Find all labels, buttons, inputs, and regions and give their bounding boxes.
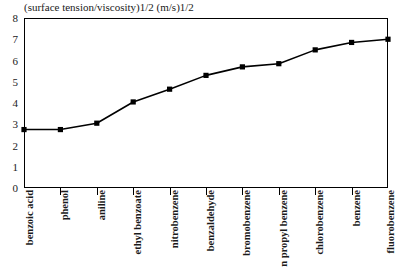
x-tick-label-text: chlorobenzene (315, 190, 326, 257)
y-tick-label: 2 (13, 140, 19, 151)
x-tick-label-text: ethyl benzoate (133, 190, 144, 256)
data-point-marker: n propyl benzene: 5.85 (276, 61, 281, 66)
data-series-layer: benzoic acid: 2.75phenol: 2.75aniline: 3… (24, 18, 388, 188)
y-tick-label: 6 (13, 55, 19, 66)
data-point-marker: chlorobenzene: 6.5 (313, 47, 318, 52)
data-point-marker: phenol: 2.75 (58, 127, 63, 132)
y-tick-label: 1 (13, 161, 19, 172)
x-tick-label-text: fluorobenzene (386, 190, 397, 255)
data-point-marker: benzoic acid: 2.75 (21, 127, 26, 132)
data-point-marker: benzaldehyde: 5.3 (203, 73, 208, 78)
x-tick-label-text: n propyl benzene (279, 190, 290, 269)
x-tick-label-text: bromobenzene (242, 190, 253, 258)
x-tick-label: benzoic acid (25, 190, 36, 247)
x-tick-label-text: benzoic acid (25, 190, 36, 247)
data-point-marker: benzene: 6.85 (349, 40, 354, 45)
x-tick-label: fluorobenzene (386, 190, 397, 255)
data-point-marker: bromobenzene: 5.7 (240, 64, 245, 69)
series-svg: benzoic acid: 2.75phenol: 2.75aniline: 3… (24, 18, 388, 188)
y-tick-label: 0 (13, 183, 19, 194)
x-tick-label-text: phenol (60, 190, 71, 222)
x-tick-label: bromobenzene (242, 190, 253, 258)
x-tick-label: nitrobenzene (170, 190, 181, 250)
y-tick-label: 8 (13, 13, 19, 24)
x-tick-label: chlorobenzene (315, 190, 326, 257)
y-tick-label: 7 (13, 34, 19, 45)
chart-title: (surface tension/viscosity)1/2 (m/s)1/2 (24, 1, 194, 14)
x-tick-label: aniline (97, 190, 108, 222)
data-point-marker: aniline: 3.05 (94, 121, 99, 126)
data-point-marker: fluorobenzene: 7 (385, 37, 390, 42)
y-tick-label: 3 (13, 119, 19, 130)
x-tick-label: benzene (352, 190, 363, 228)
x-tick-label-text: benzaldehyde (206, 190, 217, 253)
y-tick-label: 5 (13, 76, 19, 87)
chart-container: (surface tension/viscosity)1/2 (m/s)1/2 … (0, 0, 397, 273)
x-tick-label: benzaldehyde (206, 190, 217, 253)
x-tick-label: n propyl benzene (279, 190, 290, 269)
x-axis-tick-labels: benzoic acidphenolanilineethyl benzoaten… (24, 190, 388, 273)
data-point-marker: ethyl benzoate: 4.05 (131, 99, 136, 104)
series-line (24, 39, 388, 129)
x-tick-label-text: benzene (352, 190, 363, 228)
data-point-marker: nitrobenzene: 4.65 (167, 87, 172, 92)
x-tick-label-text: nitrobenzene (170, 190, 181, 250)
x-tick-label: ethyl benzoate (133, 190, 144, 256)
x-tick-label-text: aniline (97, 190, 108, 222)
y-tick-label: 4 (13, 98, 19, 109)
x-tick-label: phenol (60, 190, 71, 222)
y-axis-tick-labels: 012345678 (0, 0, 24, 273)
